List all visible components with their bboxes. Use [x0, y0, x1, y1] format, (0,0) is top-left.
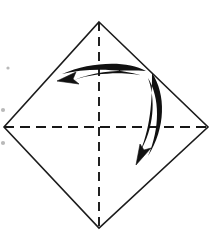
origami-fold-diagram: Origami fold step diagram Square sheet s…	[0, 0, 220, 236]
fold-diagram-container: Origami fold step diagram Square sheet s…	[0, 0, 220, 236]
scan-speck-left-lower	[1, 141, 5, 145]
diagram-background	[0, 0, 220, 236]
scan-speck-left-upper	[1, 108, 5, 112]
scan-speck-upper-left-field	[6, 66, 9, 69]
